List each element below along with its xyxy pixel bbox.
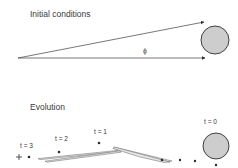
dot-trail-b <box>179 159 181 161</box>
initial-conditions-title: Initial conditions <box>30 9 90 19</box>
dot-t2 <box>58 151 61 154</box>
dot-t0-lower <box>215 164 217 166</box>
evolution-disc-t0 <box>203 133 229 159</box>
dot-trail-c <box>161 159 164 162</box>
evolution-title: Evolution <box>30 102 65 112</box>
phase-space-stretching-figure: Initial conditions ϕ Evolution t = 0 t =… <box>0 0 238 168</box>
time-label-t1: t = 1 <box>94 128 107 135</box>
time-label-t3: t = 3 <box>20 142 33 149</box>
figure-background <box>0 0 238 168</box>
dot-t1 <box>98 142 101 145</box>
time-label-t0: t = 0 <box>204 118 217 125</box>
angle-phi-label: ϕ <box>143 47 147 55</box>
initial-conditions-disc <box>201 26 229 54</box>
time-label-t2: t = 2 <box>55 135 68 142</box>
dot-trail-a <box>194 160 196 162</box>
dot-t3 <box>28 156 31 159</box>
